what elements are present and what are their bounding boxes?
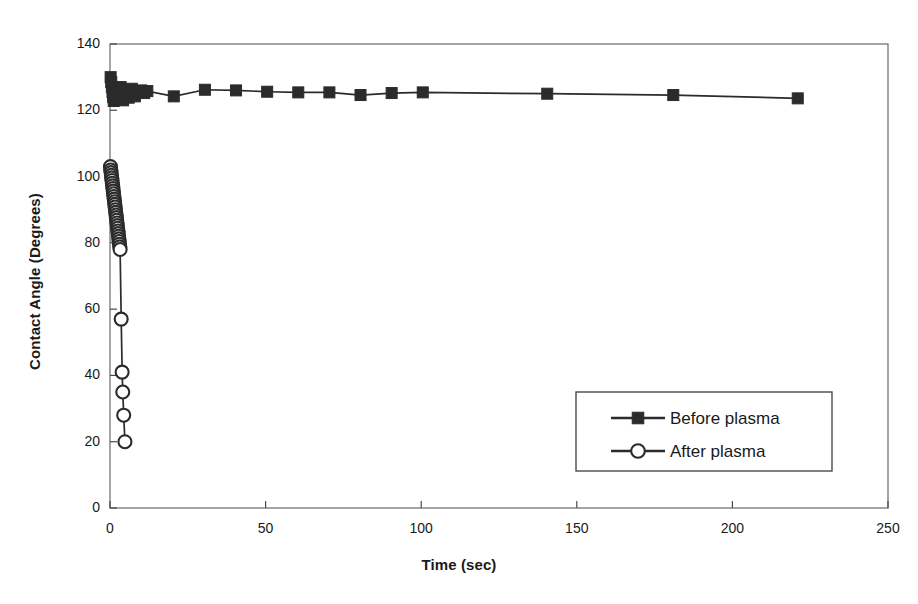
- x-tick-label: 150: [547, 520, 607, 536]
- y-tick-label: 80: [54, 234, 100, 250]
- x-tick-label: 200: [702, 520, 762, 536]
- y-tick-label: 60: [54, 300, 100, 316]
- x-tick-label: 100: [391, 520, 451, 536]
- legend-label: Before plasma: [670, 409, 780, 428]
- y-tick-label: 120: [54, 101, 100, 117]
- chart-plot-area: Before plasmaAfter plasma: [0, 0, 918, 604]
- y-tick-label: 0: [54, 499, 100, 515]
- y-tick-label: 20: [54, 433, 100, 449]
- x-tick-label: 250: [858, 520, 918, 536]
- x-axis-title: Time (sec): [0, 556, 918, 573]
- y-tick-label: 40: [54, 366, 100, 382]
- x-tick-label: 0: [80, 520, 140, 536]
- x-tick-label: 50: [236, 520, 296, 536]
- y-tick-label: 140: [54, 35, 100, 51]
- chart-legend: Before plasmaAfter plasma: [576, 392, 832, 471]
- y-axis-title: Contact Angle (Degrees): [26, 102, 43, 462]
- legend-label: After plasma: [670, 442, 766, 461]
- y-tick-label: 100: [54, 168, 100, 184]
- chart-container: Before plasmaAfter plasma Time (sec) Con…: [0, 0, 918, 604]
